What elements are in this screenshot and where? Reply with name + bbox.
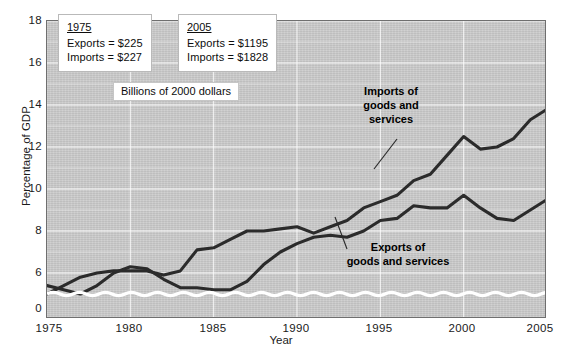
y-axis-title: Percentage of GDP	[20, 86, 32, 226]
x-tick-1990: 1990	[282, 322, 309, 334]
imports-label-line-2: goods and	[345, 98, 437, 112]
units-note: Billions of 2000 dollars	[113, 82, 239, 101]
x-axis-title: Year	[0, 334, 562, 346]
y-tick-0: 0	[8, 302, 42, 314]
x-tick-1995: 1995	[365, 322, 392, 334]
callout-1975-header: 1975	[67, 20, 143, 35]
exports-label-line-2: goods and services	[328, 254, 468, 268]
x-tick-1985: 1985	[199, 322, 226, 334]
callout-2005: 2005 Exports = $1195 Imports = $1828	[178, 14, 277, 72]
annotation-leader-lines	[335, 139, 397, 249]
callout-2005-header: 2005	[187, 20, 268, 35]
imports-label-line-3: services	[345, 112, 437, 126]
imports-label-line-1: Imports of	[345, 84, 437, 98]
x-tick-2005: 2005	[526, 322, 553, 334]
y-tick-16: 16	[8, 56, 42, 68]
exports-label-line-1: Exports of	[328, 240, 468, 254]
x-tick-1980: 1980	[115, 322, 142, 334]
exports-series-label: Exports of goods and services	[328, 240, 468, 268]
callout-1975-imports: Imports = $227	[67, 50, 143, 65]
chart-root: 18 16 14 12 10 8 6 0 1975 1980 1985 1990…	[0, 0, 562, 346]
y-tick-6: 6	[8, 266, 42, 278]
x-tick-2000: 2000	[448, 322, 475, 334]
y-tick-18: 18	[8, 14, 42, 26]
callout-1975: 1975 Exports = $225 Imports = $227	[58, 14, 152, 72]
x-tick-1975: 1975	[35, 322, 62, 334]
callout-1975-exports: Exports = $225	[67, 36, 143, 51]
callout-2005-exports: Exports = $1195	[187, 36, 268, 51]
callout-2005-imports: Imports = $1828	[187, 50, 268, 65]
imports-series-label: Imports of goods and services	[345, 84, 437, 126]
